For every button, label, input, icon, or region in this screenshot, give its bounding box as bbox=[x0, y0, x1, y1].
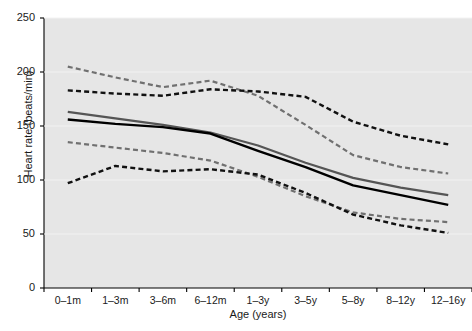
x-tick-label: 5–8y bbox=[329, 295, 377, 306]
x-tick-label: 1–3y bbox=[234, 295, 282, 306]
x-tick-label: 12–16y bbox=[424, 295, 472, 306]
y-tick-label: 50 bbox=[5, 228, 35, 239]
y-axis-title: Heart rate (beats/min) bbox=[22, 44, 34, 204]
x-axis-title: Age (years) bbox=[44, 308, 472, 320]
series-group bbox=[68, 67, 448, 233]
x-tick-label: 3–5y bbox=[282, 295, 330, 306]
y-tick-label: 0 bbox=[5, 282, 35, 293]
chart-overlay bbox=[0, 0, 472, 331]
series-line-lower-centile-black-dashed bbox=[68, 166, 448, 233]
y-tick-label: 250 bbox=[5, 12, 35, 23]
x-tick-label: 6–12m bbox=[187, 295, 235, 306]
series-line-upper-centile-black-dashed bbox=[68, 89, 448, 144]
axes-group bbox=[40, 18, 472, 292]
series-line-lower-centile-gray-dashed bbox=[68, 142, 448, 222]
x-tick-label: 8–12y bbox=[377, 295, 425, 306]
x-tick-label: 3–6m bbox=[139, 295, 187, 306]
x-tick-label: 1–3m bbox=[92, 295, 140, 306]
heart-rate-centile-chart: 050100150200250 0–1m1–3m3–6m6–12m1–3y3–5… bbox=[0, 0, 472, 331]
x-tick-label: 0–1m bbox=[44, 295, 92, 306]
